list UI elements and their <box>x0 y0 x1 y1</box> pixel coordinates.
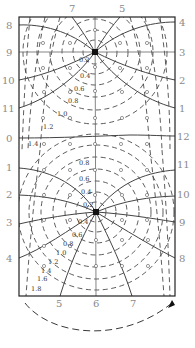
potential-value: 1.0 <box>57 110 67 118</box>
streamlines <box>19 17 175 296</box>
right-label: 10 <box>177 189 190 200</box>
right-label: 3 <box>179 47 185 58</box>
flow-net-diagram: 7 5 8 9 10 11 0 1 2 3 4 4 3 2 1 12 11 10… <box>0 0 195 348</box>
right-label: 8 <box>179 253 185 264</box>
potential-value: 0.2 <box>79 56 89 64</box>
domain-frame <box>19 17 175 296</box>
lower-potential-values: 0.8 0.6 0.4 0.2 0.4 0.6 0.8 1.0 1.2 1.4 … <box>31 159 93 293</box>
upper-potential-values: 0.2 0.4 0.6 0.8 1.0 1.2 1.4 <box>28 56 90 148</box>
right-label: 11 <box>177 159 190 170</box>
left-label: 3 <box>6 217 12 228</box>
left-label: 11 <box>2 103 15 114</box>
top-labels: 7 5 <box>69 3 125 14</box>
potential-value: 0.6 <box>74 85 84 93</box>
left-label: 1 <box>6 162 12 173</box>
potential-value: 1.2 <box>43 123 53 131</box>
bottom-label: 6 <box>93 298 99 309</box>
potential-value: 0.4 <box>81 188 91 196</box>
left-label: 0 <box>6 133 12 144</box>
potential-value: 1.4 <box>28 140 38 148</box>
left-label: 2 <box>6 189 12 200</box>
left-label: 10 <box>2 75 15 86</box>
potential-value: 0.2 <box>83 201 93 209</box>
right-label: 4 <box>179 17 185 28</box>
potential-value: 1.8 <box>31 285 41 293</box>
potential-value: 0.8 <box>63 240 73 248</box>
arrow-head-icon <box>168 300 175 308</box>
potential-value: 1.4 <box>41 267 51 275</box>
potential-value: 1.2 <box>48 258 58 266</box>
bottom-labels: 5 6 7 <box>56 298 136 309</box>
potential-value: 0.8 <box>68 97 78 105</box>
left-label: 8 <box>6 20 12 31</box>
potential-value: 1.0 <box>56 249 66 257</box>
left-label: 9 <box>6 47 12 58</box>
lower-source-marker <box>93 209 99 215</box>
right-labels: 4 3 2 1 12 11 10 9 8 <box>177 17 190 264</box>
potential-value: 0.6 <box>72 231 82 239</box>
left-label: 4 <box>6 253 12 264</box>
right-label: 12 <box>177 131 190 142</box>
potential-value: 0.6 <box>79 175 89 183</box>
top-label: 5 <box>119 3 125 14</box>
right-label: 2 <box>179 75 185 86</box>
upper-source-marker <box>92 49 98 55</box>
bottom-label: 5 <box>56 298 62 309</box>
left-labels: 8 9 10 11 0 1 2 3 4 <box>2 20 15 264</box>
top-label: 7 <box>69 3 75 14</box>
potential-value: 0.8 <box>79 159 89 167</box>
potential-value: 0.4 <box>78 218 88 226</box>
bottom-label: 7 <box>130 298 136 309</box>
potential-value: 0.4 <box>80 72 90 80</box>
potential-value: 1.6 <box>37 275 47 283</box>
right-label: 1 <box>179 103 185 114</box>
right-label: 9 <box>179 217 185 228</box>
